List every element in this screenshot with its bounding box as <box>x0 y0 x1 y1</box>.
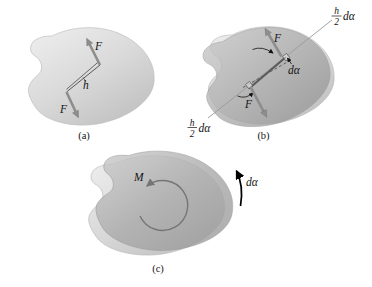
panel-a: F h F (a) <box>28 28 154 142</box>
label-force-top-a: F <box>94 40 103 52</box>
figure-canvas: F h F (a) F F dα <box>0 0 372 287</box>
panel-b: F F dα h 2 dα h 2 dα (b) <box>188 6 356 142</box>
label-moment-m: M <box>133 171 145 183</box>
frac-denominator: 2 <box>334 17 339 27</box>
frac-numerator: h <box>190 118 195 128</box>
displacement-label-top: h 2 dα <box>332 6 356 27</box>
label-force-top-b: F <box>273 32 282 44</box>
frac-suffix: dα <box>199 122 212 134</box>
frac-denominator: 2 <box>190 129 195 139</box>
label-force-bottom-b: F <box>244 98 253 110</box>
frac-suffix: dα <box>343 10 356 22</box>
label-distance-h: h <box>83 79 89 91</box>
rotation-arrow-icon <box>237 171 242 206</box>
label-angle-d-alpha: dα <box>288 64 301 76</box>
figure-couple-moment-diagram: F h F (a) F F dα <box>0 0 372 287</box>
label-force-bottom-a: F <box>59 103 68 115</box>
frac-numerator: h <box>334 6 339 16</box>
panel-c: M dα (c) <box>89 144 259 275</box>
displacement-label-bottom: h 2 dα <box>188 118 212 139</box>
label-angle-d-alpha: dα <box>246 176 259 188</box>
caption-a: (a) <box>78 130 90 142</box>
caption-b: (b) <box>257 130 270 142</box>
rigid-body-b-rotated <box>198 19 336 133</box>
caption-c: (c) <box>152 263 164 275</box>
